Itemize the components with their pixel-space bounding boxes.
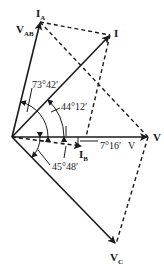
leader-73-42 [27,88,32,112]
arc-73-42 [21,102,48,137]
label-i: I [114,27,118,39]
dashed-v-to-vc [116,137,148,244]
phasor-vc [12,137,115,243]
angle-45-48: 45°48′ [52,161,78,172]
phasor-diagram: IA VAB I V IB VC 73°42′ 44°12′ 7°16′ V 4… [0,0,164,268]
angle-44-12: 44°12′ [61,101,87,112]
label-v: V [153,131,161,143]
label-vc: VC [110,251,123,266]
leader-ib-below [64,146,66,158]
phasor-ib [12,137,81,146]
label-ib: IB [79,148,88,163]
angle-arcs [21,88,98,165]
label-ia: IA [36,7,45,22]
dashed-i-to-ib [86,35,110,137]
phasor-i [12,36,109,137]
angle-73-42: 73°42′ [32,79,58,90]
phasors [12,23,147,243]
label-vab: VAB [16,23,34,38]
construction-lines [40,22,148,244]
label-v-secondary: V [128,140,136,151]
angle-7-16: 7°16′ [100,140,121,151]
leader-45-48 [38,150,50,165]
